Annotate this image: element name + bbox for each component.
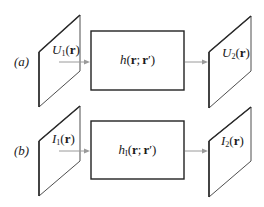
row-label-b: (b) xyxy=(14,143,29,158)
arrow-out-a xyxy=(185,60,208,65)
arrow-out-b xyxy=(185,149,208,154)
output-field-label-a: U2(r) xyxy=(222,45,250,61)
arrow-in-a xyxy=(59,60,90,65)
input-intensity-label-b: I1(r) xyxy=(51,131,75,147)
output-intensity-label-b: I2(r) xyxy=(220,133,244,149)
arrow-in-b xyxy=(59,149,90,154)
input-field-label-a: U1(r) xyxy=(52,42,80,58)
system-label-b: hI(r;r′) xyxy=(119,142,157,158)
system-label-a: h(r;r′) xyxy=(120,52,155,67)
output-plane-a xyxy=(209,16,251,108)
row-a: (a) U1(r) h(r;r′) xyxy=(14,15,251,108)
imaging-system-diagram: (a) U1(r) h(r;r′) xyxy=(0,0,264,207)
input-plane-a xyxy=(39,15,80,107)
output-plane-b xyxy=(209,107,251,197)
row-label-a: (a) xyxy=(14,54,29,69)
row-b: (b) I1(r) hI(r;r′) xyxy=(14,106,251,197)
